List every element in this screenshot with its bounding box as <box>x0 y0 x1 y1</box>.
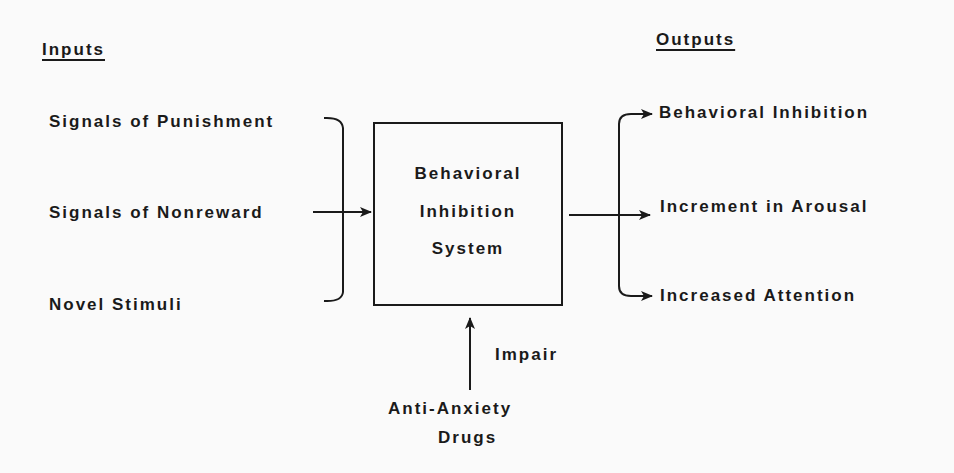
impair-label: Impair <box>495 345 558 365</box>
input-nonreward: Signals of Nonreward <box>49 203 264 223</box>
behavioral-inhibition-system-box: Behavioral Inhibition System <box>373 122 563 306</box>
system-line-1: Behavioral <box>375 164 561 184</box>
inputs-header: Inputs <box>42 40 105 60</box>
input-bracket <box>324 118 343 301</box>
input-punishment: Signals of Punishment <box>49 112 274 132</box>
drugs-line-1: Anti-Anxiety <box>388 399 512 419</box>
system-line-2: Inhibition <box>375 202 561 222</box>
output-increased-attention: Increased Attention <box>660 286 856 306</box>
input-novel-stimuli: Novel Stimuli <box>49 295 183 315</box>
system-line-3: System <box>375 239 561 259</box>
output-bracket <box>619 114 651 296</box>
output-increment-arousal: Increment in Arousal <box>660 197 868 217</box>
output-behavioral-inhibition: Behavioral Inhibition <box>659 103 869 123</box>
outputs-header: Outputs <box>656 30 735 50</box>
drugs-line-2: Drugs <box>438 428 497 448</box>
